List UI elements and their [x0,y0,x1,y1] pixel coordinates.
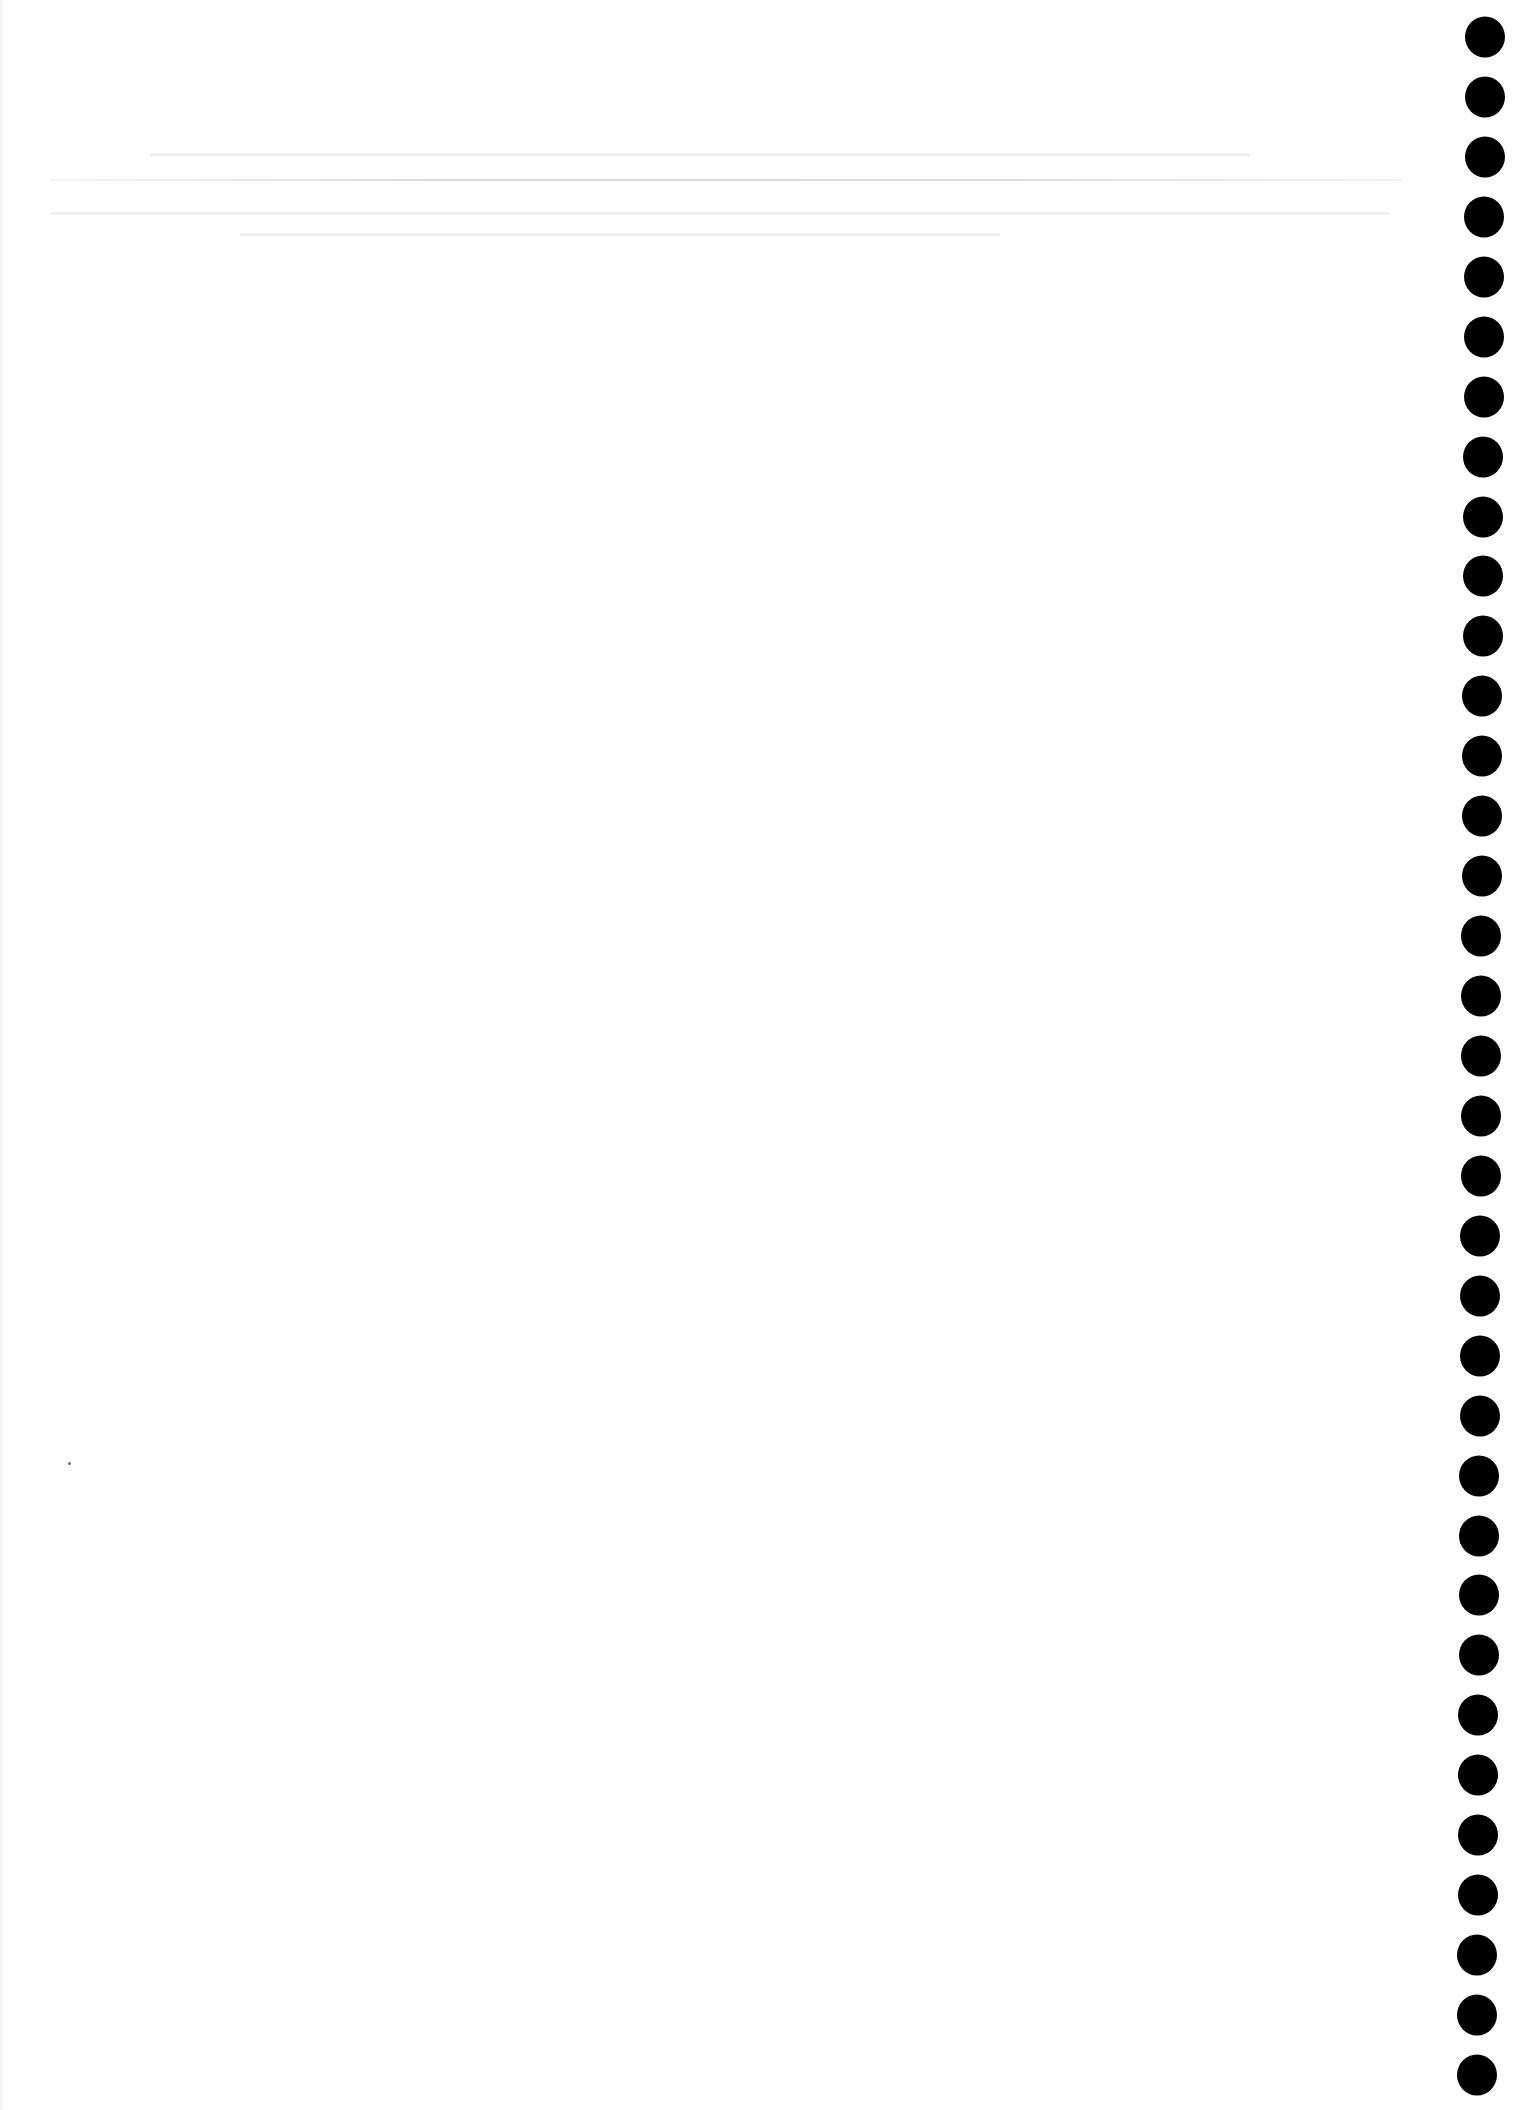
punch-hole [1461,1155,1501,1196]
scanned-page [0,0,1534,2110]
bleed-through-line [150,153,1250,156]
punch-hole [1462,856,1502,897]
punch-hole [1461,916,1501,957]
punch-hole [1463,556,1503,597]
punch-hole-column [0,0,1534,2110]
punch-hole [1457,1995,1497,2036]
punch-hole [1457,1935,1497,1976]
punch-hole [1459,1635,1499,1676]
punch-hole [1464,256,1504,297]
header-rule [50,179,1402,181]
punch-hole [1462,676,1502,717]
punch-hole [1461,1036,1501,1077]
punch-hole [1464,196,1504,237]
punch-hole [1464,376,1504,417]
punch-hole [1463,616,1503,657]
page-edge-shadow [0,0,6,2110]
punch-hole [1461,976,1501,1017]
punch-hole [1460,1395,1500,1436]
punch-hole [1465,17,1505,58]
punch-hole [1463,496,1503,537]
punch-hole [1462,796,1502,837]
punch-hole [1463,436,1503,477]
punch-hole [1465,76,1505,117]
punch-hole [1464,316,1504,357]
punch-hole [1460,1215,1500,1256]
punch-hole [1457,2055,1497,2096]
punch-hole [1458,1875,1498,1916]
punch-hole [1460,1275,1500,1316]
punch-hole [1458,1695,1498,1736]
punch-hole [1460,1335,1500,1376]
bleed-through-line [50,212,1390,215]
punch-hole [1459,1575,1499,1616]
bleed-through-line [240,233,1000,236]
punch-hole [1459,1455,1499,1496]
punch-hole [1459,1515,1499,1556]
punch-hole [1462,736,1502,777]
punch-hole [1461,1095,1501,1136]
punch-hole [1458,1755,1498,1796]
punch-hole [1458,1815,1498,1856]
dust-speck [68,1462,71,1465]
punch-hole [1465,136,1505,177]
